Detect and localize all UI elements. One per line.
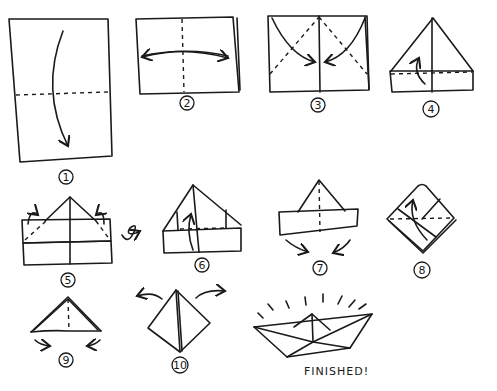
svg-text:7: 7 xyxy=(317,262,324,275)
svg-text:6: 6 xyxy=(199,259,206,272)
step-1-number: 1 xyxy=(59,170,73,184)
step-5-number: 5 xyxy=(61,273,75,287)
origami-boat-diagram: 1 2 3 4 xyxy=(0,0,497,391)
step-4-drawing xyxy=(390,18,473,92)
step-8-drawing xyxy=(387,185,456,254)
step-2-drawing xyxy=(136,17,240,94)
svg-text:8: 8 xyxy=(419,264,426,277)
svg-text:5: 5 xyxy=(65,274,72,287)
step-10-number: 10 xyxy=(172,357,188,373)
step-10-drawing xyxy=(137,290,225,352)
step-3-drawing xyxy=(268,16,369,92)
svg-text:3: 3 xyxy=(315,99,322,112)
step-8-number: 8 xyxy=(414,262,430,278)
step-9-drawing xyxy=(31,297,101,346)
step-2-number: 2 xyxy=(180,96,194,110)
svg-text:10: 10 xyxy=(173,359,187,372)
step-9-number: 9 xyxy=(59,353,73,367)
turn-over-icon xyxy=(122,226,140,240)
step-7-number: 7 xyxy=(313,261,327,275)
step-4-number: 4 xyxy=(423,101,439,117)
finished-boat-drawing xyxy=(254,294,372,357)
step-6-drawing xyxy=(163,185,241,253)
svg-text:9: 9 xyxy=(63,354,70,367)
finished-label: FINISHED! xyxy=(304,365,369,378)
step-1-drawing xyxy=(9,19,112,162)
svg-text:2: 2 xyxy=(184,97,191,110)
step-7-drawing xyxy=(279,180,358,253)
step-6-number: 6 xyxy=(195,258,209,272)
svg-text:4: 4 xyxy=(428,103,435,116)
step-5-drawing xyxy=(22,197,112,265)
step-3-number: 3 xyxy=(311,98,325,112)
svg-text:1: 1 xyxy=(63,171,70,184)
